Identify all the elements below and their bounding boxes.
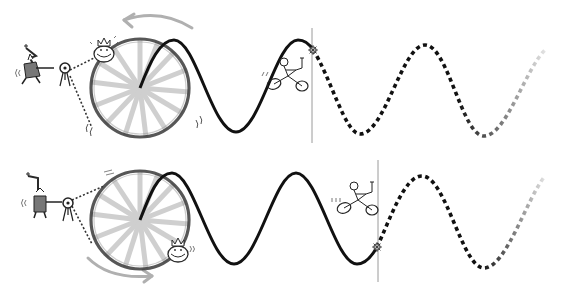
- sine-wave-solid: [140, 40, 313, 132]
- projector-tripod-icon: [63, 198, 73, 221]
- sine-wave-wheel-illustration: [0, 0, 570, 296]
- panel-bottom: [22, 160, 561, 282]
- wizard-icon: [16, 44, 55, 84]
- projector-tripod-icon: [60, 63, 70, 86]
- sine-wave-dashed: [377, 176, 545, 268]
- marker-star-icon: [372, 242, 382, 252]
- sine-wave-dashed: [313, 45, 545, 136]
- panel-top: [16, 14, 561, 143]
- wizard-icon: [22, 172, 63, 218]
- cyclist-icon: [332, 182, 378, 215]
- marker-star-icon: [308, 45, 318, 55]
- rotation-arrow-icon: [124, 14, 192, 28]
